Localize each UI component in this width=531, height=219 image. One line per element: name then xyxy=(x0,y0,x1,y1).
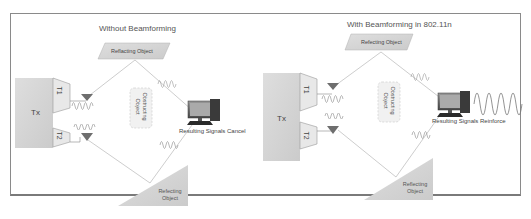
left-t2-label: T2 xyxy=(56,131,63,139)
left-t1-label: T1 xyxy=(56,86,63,94)
diagram-graphics xyxy=(0,0,531,219)
computer-icon xyxy=(437,91,470,117)
obstacle-line2: Object xyxy=(383,93,389,109)
t1-shape xyxy=(53,78,70,113)
reflector-line1: Reflecting xyxy=(403,181,427,187)
obstacle-line2: Object xyxy=(135,99,141,115)
antenna2-icon xyxy=(327,126,339,134)
right-top-reflector-label: Refecting Object xyxy=(361,39,402,45)
obstacle-line1: Obstructing xyxy=(390,86,396,114)
antenna2-icon xyxy=(81,133,93,141)
computer-icon xyxy=(187,99,220,125)
right-t2-label: T2 xyxy=(303,131,310,139)
right-bottom-reflector-label: Reflecting Object xyxy=(399,181,431,195)
reinforced-wave xyxy=(474,93,522,115)
reflector-line1: Refecting xyxy=(158,188,181,194)
right-tx-label: Tx xyxy=(277,114,286,123)
left-scene xyxy=(15,43,220,206)
left-bottom-reflector-label: Refecting Object xyxy=(155,188,185,202)
right-panel-title: With Beamforming in 802.11n xyxy=(347,20,452,29)
right-result-label: Resulting Signals Reinforce xyxy=(432,118,506,124)
left-top-reflector-label: Reflacting Object xyxy=(111,48,153,54)
left-tx-label: Tx xyxy=(31,108,40,117)
left-result-label: Resulting Signals Cancel xyxy=(179,128,246,134)
right-t1-label: T1 xyxy=(303,85,310,93)
left-obstacle-label: Obstructing Object xyxy=(135,87,148,127)
antenna1-icon xyxy=(327,83,339,90)
antenna1-icon xyxy=(81,94,93,101)
obstacle-line1: Obstructing xyxy=(142,92,148,120)
right-obstacle-label: Obstructing Object xyxy=(383,81,396,121)
reflector-line2: Object xyxy=(162,195,178,201)
reflector-line2: Object xyxy=(407,188,423,194)
left-panel-title: Without Beamforming xyxy=(99,24,176,33)
